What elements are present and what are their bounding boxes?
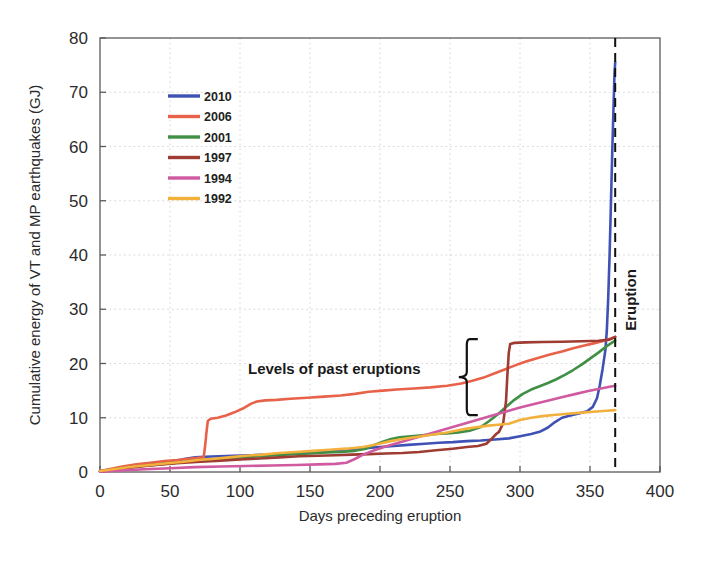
- x-tick-label: 50: [161, 482, 180, 501]
- x-tick-label: 250: [436, 482, 464, 501]
- legend-label-2006[interactable]: 2006: [204, 110, 232, 124]
- y-axis-tick-labels: 01020304050607080: [69, 29, 88, 482]
- legend-label-1997[interactable]: 1997: [204, 151, 232, 165]
- chart-figure: 050100150200250300350400 010203040506070…: [0, 0, 706, 564]
- legend-label-1994[interactable]: 1994: [204, 172, 232, 186]
- x-tick-label: 300: [506, 482, 534, 501]
- x-tick-label: 200: [366, 482, 394, 501]
- y-tick-label: 20: [69, 355, 88, 374]
- y-tick-label: 30: [69, 300, 88, 319]
- y-tick-label: 0: [79, 463, 88, 482]
- x-tick-label: 400: [646, 482, 674, 501]
- x-tick-label: 100: [226, 482, 254, 501]
- cumulative-energy-line-chart: 050100150200250300350400 010203040506070…: [0, 0, 706, 564]
- x-axis-title: Days preceding eruption: [299, 507, 462, 524]
- y-tick-label: 80: [69, 29, 88, 48]
- legend-label-1992[interactable]: 1992: [204, 192, 232, 206]
- y-tick-label: 50: [69, 192, 88, 211]
- x-tick-label: 350: [576, 482, 604, 501]
- eruption-label: Eruption: [622, 269, 639, 331]
- legend-label-2001[interactable]: 2001: [204, 131, 232, 145]
- y-tick-label: 70: [69, 83, 88, 102]
- chart-background: [0, 0, 706, 564]
- x-tick-label: 150: [296, 482, 324, 501]
- y-tick-label: 10: [69, 409, 88, 428]
- y-axis-title: Cumulative energy of VT and MP earthquak…: [26, 85, 43, 425]
- legend-label-2010[interactable]: 2010: [204, 90, 232, 104]
- y-tick-label: 40: [69, 246, 88, 265]
- levels-of-past-eruptions-label: Levels of past eruptions: [248, 360, 421, 377]
- y-tick-label: 60: [69, 138, 88, 157]
- x-tick-label: 0: [95, 482, 104, 501]
